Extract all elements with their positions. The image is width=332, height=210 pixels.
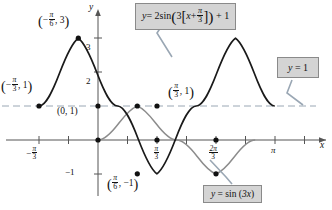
max-sign: − <box>43 15 48 25</box>
leader-line-midline <box>287 80 303 105</box>
base-close-paren: ) <box>251 189 254 199</box>
base-equals: = <box>218 189 223 199</box>
point-0-0 <box>95 137 100 142</box>
point-pi6-1 <box>135 103 140 108</box>
point-neg-pi6-3 <box>76 36 81 41</box>
base-function-callout: y = sin (3x) <box>203 185 262 203</box>
midline-value: 1 <box>303 62 308 73</box>
max-x-denominator: 6 <box>49 20 55 28</box>
pi3-open-paren: ( <box>168 84 173 100</box>
point-label-origin-intercept: (0, 1) <box>57 106 78 116</box>
min-x-denominator: 6 <box>112 183 118 191</box>
point-label-minimum: (π6, −1) <box>107 174 138 193</box>
point-0-1 <box>95 103 100 108</box>
pi3-close-paren: ) <box>189 84 194 100</box>
point-label-maximum: (−π6, 3) <box>38 11 69 30</box>
xtick1-denominator: 3 <box>32 153 38 160</box>
point-neg-pi3-1 <box>36 103 41 108</box>
min-x-fraction: π6 <box>112 174 118 191</box>
y-tick-label-2: 2 <box>86 76 91 86</box>
formula-plus: + <box>191 10 197 21</box>
x-tick-label-pi-over-3: π3 <box>153 145 160 161</box>
max-x-fraction: π6 <box>49 11 55 28</box>
formula-equals: = <box>146 10 152 21</box>
pi3-x-denominator: 3 <box>173 91 179 99</box>
xtick2-fraction: π3 <box>154 145 160 161</box>
pi3-x-fraction: π3 <box>173 82 179 99</box>
point-pi3-0 <box>154 137 159 142</box>
point-pi3-1 <box>154 103 159 108</box>
graph-canvas <box>0 0 332 210</box>
midline-equals: = <box>295 62 301 73</box>
x-axis-label: x <box>320 140 324 150</box>
trig-graph-figure: y= 2sin(3[x+π3]) + 1 y = 1 y = sin (3x) … <box>0 0 332 210</box>
xtick3-denominator: 3 <box>209 153 218 160</box>
point-label-left-endpoint: (−π3, 1) <box>1 76 32 95</box>
formula-constant: + 1 <box>216 10 229 21</box>
max-close-paren: ) <box>65 13 70 29</box>
y-axis-label: y <box>89 2 93 12</box>
left-sign: − <box>6 80 11 90</box>
xtick1-fraction: π3 <box>32 145 38 161</box>
x-tick-label-neg-pi-over-3: −π3 <box>26 145 38 161</box>
left-x-fraction: π3 <box>12 76 18 93</box>
left-close-paren: ) <box>28 78 33 94</box>
xtick3-fraction: 2π3 <box>209 145 218 161</box>
point-2pi3-0 <box>213 137 218 142</box>
xtick2-denominator: 3 <box>154 153 160 160</box>
base-lhs: y <box>211 189 215 199</box>
x-tick-label-pi: π <box>271 145 276 155</box>
left-x-denominator: 3 <box>12 85 18 93</box>
midline-callout: y = 1 <box>277 57 319 78</box>
x-tick-label-2pi-over-3: 2π3 <box>208 145 218 161</box>
y-tick-label-3: 3 <box>86 42 91 52</box>
min-open-paren: ( <box>107 176 112 192</box>
formula-close-paren: ) <box>208 8 213 25</box>
midline-lhs: y <box>288 62 292 73</box>
base-function: sin <box>225 189 236 199</box>
formula-function: sin <box>160 10 172 21</box>
y-axis-arrow-icon <box>95 9 101 16</box>
min-close-paren: ) <box>134 176 139 192</box>
min-y-value: −1 <box>123 178 133 188</box>
y-tick-label-neg-1: −1 <box>65 167 75 177</box>
callout-leader-lines <box>157 24 303 184</box>
point-pi2-neg1 <box>213 171 218 176</box>
base-argument: 3x <box>242 189 251 199</box>
transformed-function-callout: y= 2sin(3[x+π3]) + 1 <box>135 3 236 30</box>
xtick1-sign: − <box>26 148 31 158</box>
point-label-pi-third: (π3, 1) <box>168 82 194 101</box>
